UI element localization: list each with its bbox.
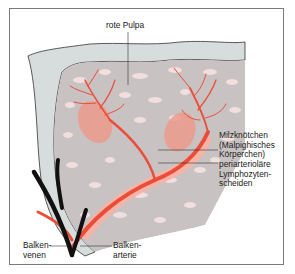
label-rote-pulpa: rote Pulpa — [106, 21, 144, 31]
label-balkenarterie: Balken- arterie — [113, 241, 141, 260]
label-milzknoetchen: Milzknötchen (Malpighisches Körperchen) — [219, 131, 275, 160]
label-periarteriolare-lymphozytenscheiden: periarterioläre Lymphozyten- scheiden — [219, 160, 271, 189]
label-balkenvenen: Balken- venen — [23, 241, 51, 260]
